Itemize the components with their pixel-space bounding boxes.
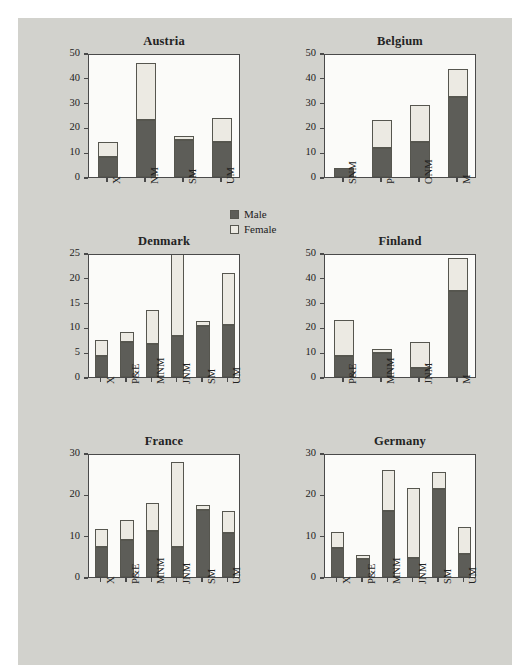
bar-segment-female[interactable] (171, 255, 184, 336)
x-tick-label: P&E (130, 364, 141, 384)
x-tick-label: X (105, 576, 116, 584)
bar-group[interactable] (120, 255, 133, 377)
x-tick-mark (201, 378, 202, 382)
bars-layer (325, 255, 475, 377)
bar-segment-female[interactable] (98, 142, 118, 157)
bar-segment-male[interactable] (331, 548, 344, 577)
bar-group[interactable] (171, 455, 184, 577)
bar-segment-male[interactable] (448, 291, 468, 377)
bar-segment-female[interactable] (356, 555, 369, 559)
bar-segment-female[interactable] (174, 136, 194, 140)
x-tick-mark (100, 378, 101, 382)
y-tick-label: 10 (290, 530, 316, 541)
bar-segment-male[interactable] (432, 489, 445, 577)
bar-group[interactable] (222, 455, 235, 577)
bar-segment-female[interactable] (120, 520, 133, 539)
panel-denmark: Denmark0510152025XP&EMNMJNMSMUM (54, 234, 240, 424)
bar-segment-female[interactable] (331, 532, 344, 549)
bars-layer (325, 55, 475, 177)
bar-group[interactable] (372, 55, 392, 177)
y-tick-mark (320, 303, 324, 304)
bar-segment-male[interactable] (448, 97, 468, 177)
x-tick-label: SM (206, 369, 217, 384)
legend-item-male[interactable]: Male (230, 208, 267, 220)
bar-group[interactable] (120, 455, 133, 577)
x-tick-mark (380, 178, 381, 182)
panel-title: Germany (324, 434, 476, 449)
legend-item-female[interactable]: Female (230, 223, 276, 235)
x-tick-mark (342, 378, 343, 382)
bar-group[interactable] (334, 255, 354, 377)
bar-segment-female[interactable] (212, 118, 232, 142)
bar-segment-female[interactable] (196, 505, 209, 510)
bar-group[interactable] (171, 255, 184, 377)
bar-segment-female[interactable] (448, 258, 468, 291)
bar-segment-female[interactable] (407, 488, 420, 558)
panel-title: Finland (324, 234, 476, 249)
x-tick-mark (176, 378, 177, 382)
bar-group[interactable] (410, 255, 430, 377)
y-tick-mark (320, 253, 324, 254)
bar-group[interactable] (432, 455, 445, 577)
bar-group[interactable] (95, 455, 108, 577)
legend-swatch-icon (230, 210, 239, 219)
y-tick-label: 0 (290, 571, 316, 582)
bar-segment-female[interactable] (222, 511, 235, 533)
bar-segment-female[interactable] (334, 320, 354, 356)
bar-group[interactable] (407, 455, 420, 577)
bar-segment-female[interactable] (95, 340, 108, 356)
bar-group[interactable] (448, 255, 468, 377)
bar-group[interactable] (136, 55, 156, 177)
bar-group[interactable] (356, 455, 369, 577)
bar-segment-female[interactable] (171, 462, 184, 547)
bar-segment-female[interactable] (432, 472, 445, 489)
x-tick-mark (342, 178, 343, 182)
bar-group[interactable] (334, 55, 354, 177)
x-tick-label: MNM (155, 558, 166, 584)
panel-title: Denmark (88, 234, 240, 249)
y-tick-label: 30 (54, 97, 80, 108)
bar-segment-male[interactable] (98, 157, 118, 177)
bar-group[interactable] (95, 255, 108, 377)
x-tick-mark (463, 578, 464, 582)
y-tick-mark (320, 577, 324, 578)
y-tick-label: 30 (290, 297, 316, 308)
bar-group[interactable] (212, 55, 232, 177)
x-tick-mark (125, 578, 126, 582)
panel-title: France (88, 434, 240, 449)
y-tick-mark (84, 53, 88, 54)
y-tick-label: 30 (290, 97, 316, 108)
bar-group[interactable] (196, 455, 209, 577)
bar-group[interactable] (448, 55, 468, 177)
bar-segment-female[interactable] (372, 120, 392, 148)
bar-segment-female[interactable] (382, 470, 395, 511)
bar-segment-female[interactable] (120, 332, 133, 342)
bar-segment-female[interactable] (222, 273, 235, 326)
bar-segment-male[interactable] (95, 356, 108, 377)
bar-segment-female[interactable] (146, 503, 159, 531)
bar-segment-female[interactable] (448, 69, 468, 97)
bar-segment-female[interactable] (458, 527, 471, 554)
bar-segment-female[interactable] (136, 63, 156, 121)
bar-group[interactable] (174, 55, 194, 177)
x-tick-mark (176, 578, 177, 582)
bar-segment-female[interactable] (146, 310, 159, 344)
y-tick-mark (320, 328, 324, 329)
bar-segment-female[interactable] (95, 529, 108, 546)
x-tick-label: X (341, 576, 352, 584)
x-tick-label: P&E (366, 564, 377, 584)
bar-group[interactable] (98, 55, 118, 177)
bar-segment-female[interactable] (372, 349, 392, 353)
bar-group[interactable] (196, 255, 209, 377)
x-tick-mark (380, 378, 381, 382)
y-tick-mark (84, 278, 88, 279)
bar-segment-female[interactable] (196, 321, 209, 326)
bar-group[interactable] (222, 255, 235, 377)
y-tick-mark (320, 128, 324, 129)
bar-segment-male[interactable] (95, 547, 108, 577)
bar-group[interactable] (331, 455, 344, 577)
bar-segment-male[interactable] (372, 148, 392, 177)
bar-segment-male[interactable] (196, 510, 209, 577)
bar-segment-female[interactable] (410, 105, 430, 142)
bar-group[interactable] (458, 455, 471, 577)
